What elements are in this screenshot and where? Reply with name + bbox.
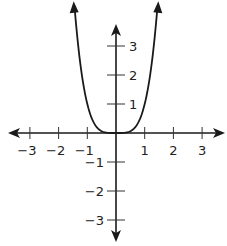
x-tick-label: −3	[17, 143, 36, 158]
y-tick-label: −3	[85, 213, 104, 228]
x-tick-label: 1	[141, 143, 149, 158]
y-tick-label: 2	[129, 68, 137, 83]
curve-right-arrow-icon	[153, 1, 162, 13]
y-tick-label: −2	[85, 184, 104, 199]
y-tick-label: 1	[129, 97, 137, 112]
curve-left-arrow-icon	[70, 1, 79, 13]
y-tick-label: −1	[85, 155, 104, 170]
chart-container: −3−2−1123321−1−2−3	[0, 0, 227, 246]
x-tick-label: −2	[46, 143, 65, 158]
x-tick-label: 2	[169, 143, 177, 158]
x-tick-label: 3	[198, 143, 206, 158]
function-plot: −3−2−1123321−1−2−3	[0, 0, 227, 246]
y-tick-label: 3	[129, 39, 137, 54]
